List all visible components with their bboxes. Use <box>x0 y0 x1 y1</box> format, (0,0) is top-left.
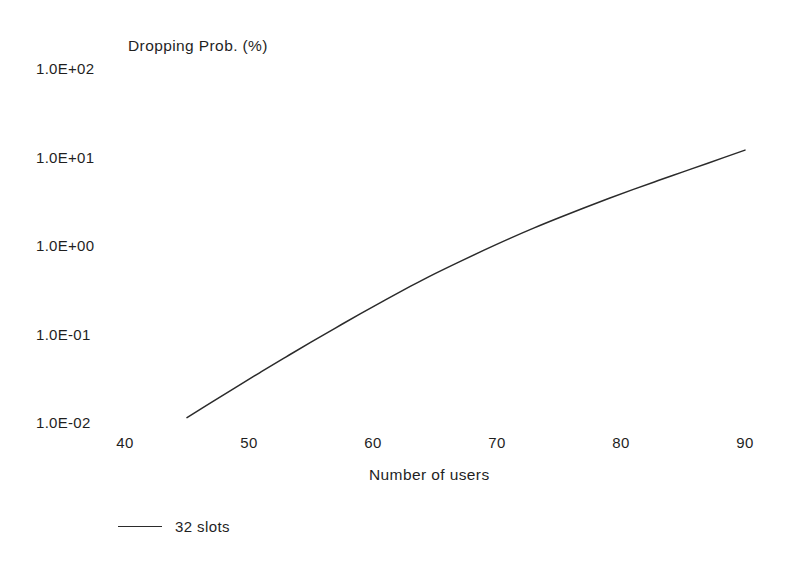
legend-line-swatch <box>118 526 162 527</box>
data-line-32-slots <box>187 150 745 418</box>
legend-item-label: 32 slots <box>175 518 230 535</box>
chart-figure: Dropping Prob. (%) Number of users 1.0E-… <box>0 0 799 575</box>
plot-area <box>0 0 799 575</box>
legend: 32 slots <box>118 518 230 535</box>
